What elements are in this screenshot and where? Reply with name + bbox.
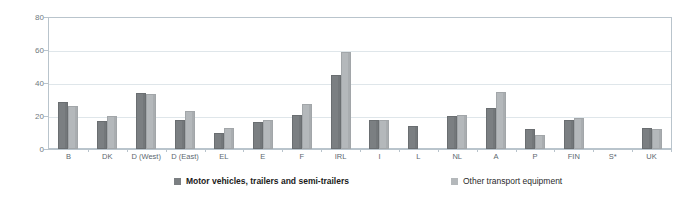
bar xyxy=(68,106,78,149)
bar xyxy=(302,104,312,149)
bar-chart: 80 60 40 20 0 BDKD (West)D (East)ELEFIRL… xyxy=(0,0,697,200)
bar-group xyxy=(292,18,312,149)
y-tick-label-80: 80 xyxy=(4,13,44,22)
x-axis-tick-label: S* xyxy=(593,151,632,163)
bar xyxy=(642,128,652,149)
chart-legend: Motor vehicles, trailers and semi-traile… xyxy=(0,176,697,192)
bar-group xyxy=(253,18,273,149)
bar xyxy=(564,120,574,149)
bar xyxy=(379,120,389,149)
bar-group xyxy=(603,18,623,149)
legend-label-motor-vehicles: Motor vehicles, trailers and semi-traile… xyxy=(186,176,349,186)
bar-group xyxy=(408,18,428,149)
legend-entry-motor-vehicles[interactable]: Motor vehicles, trailers and semi-traile… xyxy=(174,176,349,186)
bar xyxy=(331,75,341,149)
bar xyxy=(175,120,185,149)
x-tick-mark xyxy=(671,149,672,152)
x-axis-tick-label: F xyxy=(282,151,321,163)
bar xyxy=(107,116,117,149)
bar xyxy=(292,115,302,149)
x-axis-tick-label: IRL xyxy=(321,151,360,163)
bar xyxy=(214,133,224,149)
x-axis-tick-label: FIN xyxy=(554,151,593,163)
bar xyxy=(341,52,351,149)
bar-group xyxy=(642,18,662,149)
bar-group xyxy=(58,18,78,149)
x-axis-tick-label: EL xyxy=(205,151,244,163)
x-axis-tick-label: E xyxy=(243,151,282,163)
bar xyxy=(224,128,234,149)
bar xyxy=(486,108,496,149)
legend-entry-other-transport[interactable]: Other transport equipment xyxy=(451,176,562,186)
bar xyxy=(146,94,156,149)
bar-group xyxy=(97,18,117,149)
bar xyxy=(136,93,146,149)
bar xyxy=(496,92,506,149)
bar-group xyxy=(136,18,156,149)
legend-swatch-icon-light xyxy=(451,178,458,185)
x-axis-tick-label: UK xyxy=(632,151,671,163)
bar xyxy=(263,120,273,149)
bar xyxy=(408,126,418,149)
y-tick-label-40: 40 xyxy=(4,79,44,88)
bar-group xyxy=(331,18,351,149)
bar xyxy=(369,120,379,149)
bar xyxy=(58,102,68,149)
x-axis-tick-label: I xyxy=(360,151,399,163)
bar-group xyxy=(214,18,234,149)
x-axis-tick-label: P xyxy=(516,151,555,163)
bar-group xyxy=(369,18,389,149)
bar xyxy=(185,111,195,149)
x-axis-tick-label: D (West) xyxy=(127,151,166,163)
x-axis-tick-label: DK xyxy=(88,151,127,163)
bar xyxy=(457,115,467,149)
y-tick-label-60: 60 xyxy=(4,46,44,55)
bar xyxy=(253,122,263,149)
x-axis-labels: BDKD (West)D (East)ELEFIRLILNLAPFINS*UK xyxy=(49,151,671,165)
x-axis-tick-label: B xyxy=(49,151,88,163)
bar xyxy=(652,129,662,149)
bar xyxy=(447,116,457,149)
bar-group xyxy=(175,18,195,149)
bar-group xyxy=(486,18,506,149)
bar xyxy=(574,118,584,149)
y-axis-labels: 80 60 40 20 0 xyxy=(0,0,44,200)
x-axis-tick-label: A xyxy=(477,151,516,163)
y-tick-label-0: 0 xyxy=(4,145,44,154)
bar-group xyxy=(447,18,467,149)
x-axis-tick-label: L xyxy=(399,151,438,163)
bar-group xyxy=(564,18,584,149)
bar xyxy=(535,135,545,149)
bar-series-layer xyxy=(49,18,671,149)
y-tick-label-20: 20 xyxy=(4,112,44,121)
bar xyxy=(97,121,107,149)
bar-group xyxy=(525,18,545,149)
legend-label-other-transport: Other transport equipment xyxy=(463,176,562,186)
x-axis-tick-label: NL xyxy=(438,151,477,163)
legend-swatch-icon-dark xyxy=(174,178,181,185)
bar xyxy=(525,129,535,149)
x-axis-tick-label: D (East) xyxy=(166,151,205,163)
